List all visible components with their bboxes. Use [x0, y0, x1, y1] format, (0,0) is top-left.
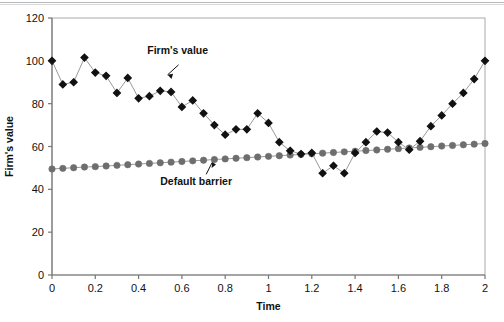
data-point-default-barrier-8	[135, 161, 141, 167]
data-point-firms-value-7	[124, 74, 131, 81]
x-axis-title: Time	[256, 300, 280, 312]
data-point-default-barrier-30	[374, 147, 380, 153]
data-point-firms-value-27	[341, 170, 348, 177]
y-tick-label-0: 0	[38, 269, 44, 281]
x-tick-label-10: 2	[482, 282, 488, 294]
data-point-firms-value-1	[59, 81, 66, 88]
data-point-firms-value-6	[113, 89, 120, 96]
data-point-default-barrier-29	[363, 147, 369, 153]
data-point-default-barrier-31	[384, 146, 390, 152]
data-point-default-barrier-17	[233, 155, 239, 161]
x-tick-label-5: 1	[265, 282, 271, 294]
data-point-firms-value-5	[103, 72, 110, 79]
data-point-default-barrier-40	[482, 140, 488, 146]
data-point-firms-value-3	[81, 54, 88, 61]
annotation-default-barrier-arrow	[206, 162, 212, 174]
firm-value-default-barrier-chart: 02040608010012000.20.40.60.811.21.41.61.…	[0, 0, 504, 322]
data-point-firms-value-8	[135, 95, 142, 102]
data-point-default-barrier-37	[449, 142, 455, 148]
data-point-default-barrier-16	[222, 156, 228, 162]
data-point-default-barrier-38	[460, 142, 466, 148]
data-point-firms-value-12	[178, 103, 185, 110]
y-tick-label-3: 60	[32, 141, 44, 153]
data-point-default-barrier-36	[439, 143, 445, 149]
annotation-firms-value-arrow	[168, 65, 179, 75]
data-point-default-barrier-6	[114, 162, 120, 168]
data-point-default-barrier-25	[319, 150, 325, 156]
data-point-default-barrier-12	[179, 158, 185, 164]
data-point-default-barrier-4	[92, 163, 98, 169]
data-point-firms-value-18	[243, 126, 250, 133]
data-point-default-barrier-5	[103, 163, 109, 169]
data-point-default-barrier-27	[341, 149, 347, 155]
data-point-firms-value-40	[482, 57, 489, 64]
data-point-default-barrier-14	[200, 157, 206, 163]
data-point-firms-value-0	[49, 57, 56, 64]
data-point-firms-value-4	[92, 69, 99, 76]
data-point-firms-value-2	[70, 79, 77, 86]
x-tick-label-9: 1.8	[434, 282, 449, 294]
data-point-firms-value-9	[146, 93, 153, 100]
page-rule-top	[0, 2, 504, 3]
data-point-default-barrier-1	[60, 165, 66, 171]
data-point-default-barrier-7	[125, 162, 131, 168]
x-tick-label-3: 0.6	[174, 282, 189, 294]
annotation-default-barrier-arrowhead	[212, 162, 216, 168]
x-tick-label-6: 1.2	[304, 282, 319, 294]
data-point-default-barrier-39	[471, 141, 477, 147]
data-point-default-barrier-15	[211, 156, 217, 162]
data-point-default-barrier-11	[168, 159, 174, 165]
data-point-default-barrier-35	[428, 144, 434, 150]
data-point-default-barrier-18	[244, 154, 250, 160]
data-point-default-barrier-2	[70, 165, 76, 171]
data-point-default-barrier-0	[49, 166, 55, 172]
y-tick-label-4: 80	[32, 98, 44, 110]
page-rule-top-2	[0, 4, 504, 5]
data-point-firms-value-25	[319, 170, 326, 177]
data-point-default-barrier-10	[157, 160, 163, 166]
y-tick-label-6: 120	[26, 12, 44, 24]
data-point-default-barrier-19	[254, 154, 260, 160]
data-point-firms-value-26	[330, 162, 337, 169]
annotation-default-barrier-label: Default barrier	[160, 175, 232, 187]
data-point-default-barrier-20	[265, 153, 271, 159]
y-tick-label-1: 20	[32, 226, 44, 238]
x-tick-label-4: 0.8	[218, 282, 233, 294]
data-point-firms-value-17	[233, 126, 240, 133]
data-point-default-barrier-3	[81, 164, 87, 170]
data-point-default-barrier-13	[190, 158, 196, 164]
data-point-default-barrier-9	[146, 160, 152, 166]
chart-figure: 02040608010012000.20.40.60.811.21.41.61.…	[0, 0, 504, 322]
data-point-firms-value-10	[157, 87, 164, 94]
x-tick-label-0: 0	[49, 282, 55, 294]
data-point-default-barrier-26	[330, 149, 336, 155]
y-axis-title: Firm's value	[3, 116, 15, 177]
data-point-firms-value-11	[168, 88, 175, 95]
x-tick-label-8: 1.6	[391, 282, 406, 294]
y-tick-label-2: 40	[32, 183, 44, 195]
annotation-firms-value-label: Firm's value	[147, 44, 208, 56]
y-tick-label-5: 100	[26, 55, 44, 67]
x-tick-label-2: 0.4	[131, 282, 146, 294]
data-point-default-barrier-21	[276, 153, 282, 159]
x-tick-label-1: 0.2	[88, 282, 103, 294]
x-tick-label-7: 1.4	[347, 282, 362, 294]
